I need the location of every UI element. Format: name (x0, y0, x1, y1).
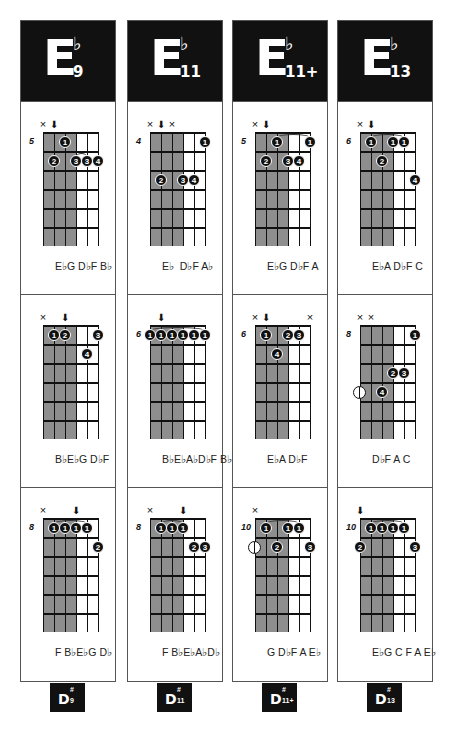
start-fret-number: 6 (136, 329, 141, 339)
fret-line (255, 594, 311, 596)
chord-notes: E♭A D♭F C (372, 260, 423, 272)
fret-line (255, 227, 311, 229)
enharmonic-root: D (375, 691, 387, 707)
root-arrow-icon: ⬇ (156, 119, 166, 130)
enharmonic-badge: D#9 (50, 683, 85, 712)
finger-dot: 2 (354, 541, 366, 553)
fret-line (43, 363, 99, 365)
finger-dot: 2 (155, 174, 167, 186)
chord-column: E♭11+511234×⬇E♭G D♭F A61234×⬇×E♭A D♭F101… (232, 20, 328, 682)
fret-line (360, 420, 416, 422)
fretboard: 111123 (360, 518, 415, 632)
fretboard: 1234 (255, 325, 310, 439)
enharmonic-badge: D#11 (157, 683, 192, 712)
finger-dot: 1 (260, 329, 272, 341)
root-arrow-icon: ⬇ (355, 505, 365, 516)
chord-column: E♭13611124×⬇E♭A D♭F C81234××D♭F A C10111… (337, 20, 433, 682)
fret-line (255, 151, 311, 153)
enharmonic-accidental: # (70, 686, 74, 693)
chord-notes: E♭A D♭F (267, 453, 307, 465)
finger-dot: 4 (271, 348, 283, 360)
fret-line (360, 170, 416, 172)
fret-line (255, 401, 311, 403)
fret-line (150, 132, 206, 134)
root-arrow-icon: ⬇ (366, 119, 376, 130)
fret-line (150, 170, 206, 172)
chord-diagram: 611124×⬇E♭A D♭F C (338, 101, 432, 294)
chord-root: E (360, 33, 392, 83)
fret-line (150, 594, 206, 596)
chord-header: E♭11+ (233, 21, 327, 101)
enharmonic-quality: 13 (387, 697, 395, 704)
root-arrow-icon: ⬇ (156, 312, 166, 323)
chord-header: E♭11 (128, 21, 222, 101)
fret-line (43, 537, 99, 539)
finger-dot: 1 (271, 136, 283, 148)
fret-line (150, 575, 206, 577)
muted-string-icon: × (250, 312, 260, 323)
fret-line (255, 189, 311, 191)
fret-line (360, 537, 416, 539)
finger-dot: 1 (59, 136, 71, 148)
fretboard: 11123 (150, 518, 205, 632)
fret-line (43, 208, 99, 210)
chord-diagram: 1234×⬇B♭E♭G D♭F (21, 294, 115, 487)
finger-dot: 1 (81, 522, 93, 534)
chord-diagram: 811112×⬇F B♭E♭G D♭ (21, 487, 115, 680)
chord-notes: F B♭E♭G D♭ (55, 646, 112, 658)
fret-line (360, 189, 416, 191)
finger-dot: 1 (398, 522, 410, 534)
enharmonic-accidental: # (177, 686, 181, 693)
chord-notes: E♭ D♭F A♭ (162, 260, 213, 272)
start-fret-number: 5 (241, 136, 246, 146)
fret-line (43, 613, 99, 615)
fret-line (150, 189, 206, 191)
fretboard: 1234 (360, 325, 415, 439)
muted-string-icon: × (167, 119, 177, 130)
fret-line (360, 382, 416, 384)
fret-line (360, 575, 416, 577)
start-fret-number: 4 (136, 136, 141, 146)
fret-line (150, 556, 206, 558)
chord-notes: G D♭F A E♭ (267, 646, 321, 658)
fret-line (43, 344, 99, 346)
fret-line (255, 170, 311, 172)
fret-line (255, 344, 311, 346)
finger-dot: 2 (271, 541, 283, 553)
fret-line (150, 537, 206, 539)
fret-line (43, 401, 99, 403)
enharmonic-root: D (270, 691, 282, 707)
finger-dot: 2 (376, 155, 388, 167)
chord-notes: B♭E♭G D♭F (55, 453, 109, 465)
muted-string-icon: × (145, 119, 155, 130)
muted-string-icon: × (38, 312, 48, 323)
fret-line (43, 556, 99, 558)
finger-dot: 3 (293, 329, 305, 341)
chord-column: E♭9512334×⬇E♭G D♭F B♭1234×⬇B♭E♭G D♭F8111… (20, 20, 116, 682)
fret-line (150, 420, 206, 422)
chord-accidental: ♭ (285, 33, 294, 54)
fret-line (360, 556, 416, 558)
enharmonic-badge: D#13 (367, 683, 402, 712)
finger-dot: 2 (92, 541, 104, 553)
fret-line (43, 575, 99, 577)
fret-line (255, 556, 311, 558)
chord-quality: 11+ (285, 63, 318, 81)
fret-line (43, 132, 99, 134)
muted-string-icon: × (355, 119, 365, 130)
muted-string-icon: × (38, 119, 48, 130)
chord-notes: E♭G D♭F B♭ (55, 260, 112, 272)
start-fret-number: 10 (346, 522, 356, 532)
fret-line (43, 382, 99, 384)
fretboard: 11112 (43, 518, 98, 632)
finger-dot: 3 (199, 541, 211, 553)
chord-notes: E♭G C F A E♭ (372, 646, 436, 658)
finger-dot: 3 (409, 541, 421, 553)
fretboard: 11234 (255, 132, 310, 246)
chord-accidental: ♭ (73, 33, 82, 54)
fret-line (255, 575, 311, 577)
fret-line (255, 537, 311, 539)
finger-dot: 1 (177, 522, 189, 534)
chord-accidental: ♭ (390, 33, 399, 54)
chord-accidental: ♭ (180, 33, 189, 54)
